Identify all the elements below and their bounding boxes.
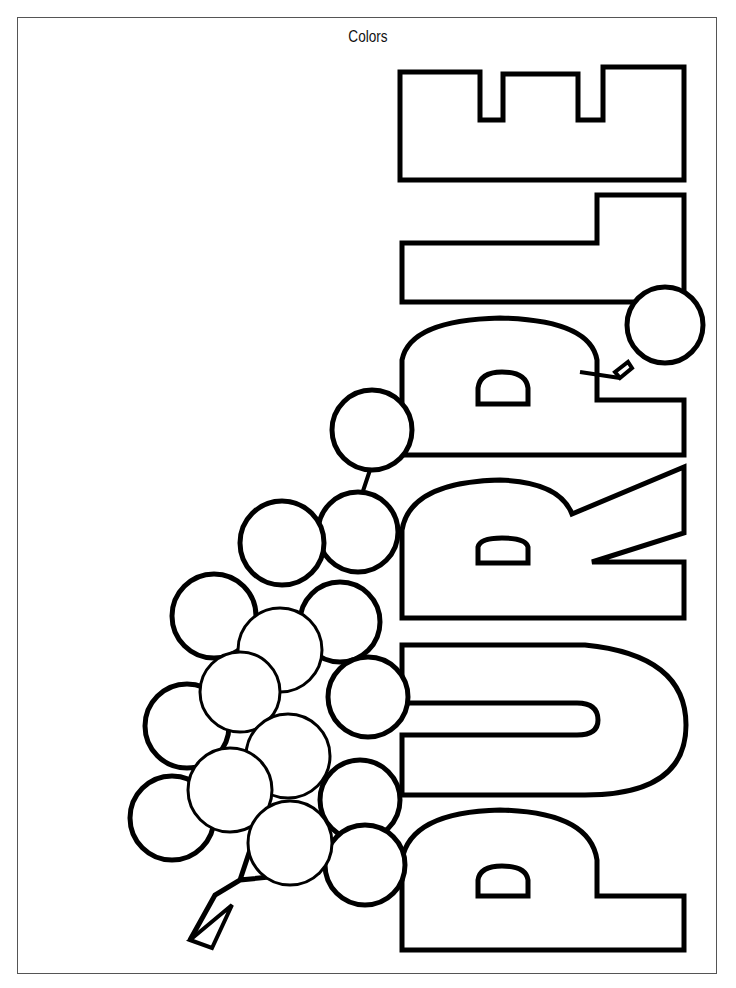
- letter-u-outline: [402, 645, 686, 795]
- letter-r-outline: [402, 467, 684, 618]
- grape: [328, 657, 408, 737]
- letter-p-lower-outline: [402, 810, 684, 950]
- letter-l-outline: [402, 195, 684, 302]
- letter-p-lower-counter: [478, 866, 528, 896]
- letter-p-upper-counter: [478, 372, 528, 404]
- grape-stem: [615, 362, 632, 378]
- grape: [248, 801, 332, 885]
- grape: [325, 825, 405, 905]
- coloring-illustration: [0, 0, 736, 988]
- grape: [240, 501, 324, 585]
- grape: [332, 390, 412, 470]
- grape: [318, 492, 398, 572]
- grape: [627, 287, 703, 363]
- letter-e-outline: [400, 67, 684, 180]
- letter-r-counter: [478, 538, 528, 563]
